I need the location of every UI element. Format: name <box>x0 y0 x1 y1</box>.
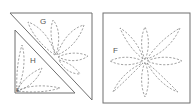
square-f-flower <box>110 27 182 97</box>
label-h: H <box>30 56 36 65</box>
label-corner-e: E <box>16 87 20 93</box>
triangle-g-outline <box>10 13 92 100</box>
triangle-h-outline <box>15 30 75 93</box>
triangle-g-petals <box>28 20 88 74</box>
label-f: F <box>113 46 118 55</box>
triangle-h-petals <box>17 45 60 92</box>
square-f-outline <box>103 13 190 103</box>
label-g: G <box>40 17 46 26</box>
left-block: G H E <box>10 13 92 100</box>
right-block: F <box>103 13 190 103</box>
quilt-diagram: G H E F <box>0 0 195 111</box>
